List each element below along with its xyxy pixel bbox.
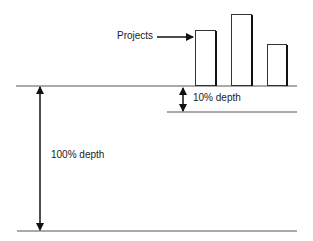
project-bar-1 [196, 31, 216, 86]
depth-diagram [0, 0, 313, 241]
project-bars [196, 15, 288, 87]
full-depth-label: 100% depth [51, 149, 104, 161]
project-bar-3 [268, 45, 287, 86]
shallow-depth-label: 10% depth [193, 92, 241, 104]
projects-label: Projects [117, 30, 153, 42]
project-bar-2 [232, 15, 252, 86]
